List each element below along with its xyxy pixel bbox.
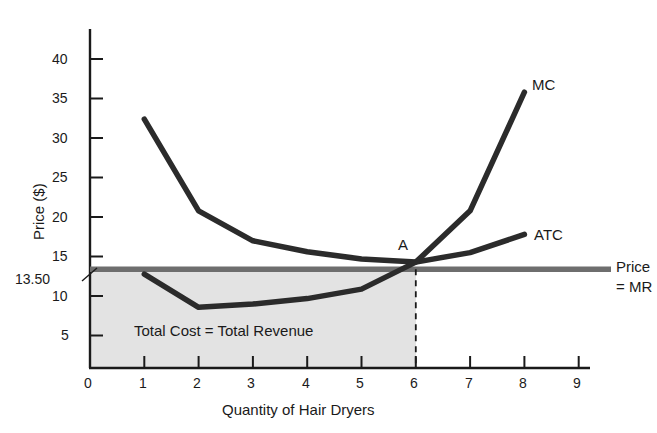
- chart-figure: 40 35 30 25 20 15 10 5 13.50 0 1 2 3 4 5…: [0, 0, 657, 433]
- atc-curve-label: ATC: [534, 226, 563, 243]
- y-tick-label-5: 5: [61, 327, 69, 343]
- mc-curve-label: MC: [532, 76, 555, 93]
- x-tick-label-0: 0: [84, 375, 92, 391]
- y-tick-label-40: 40: [52, 51, 68, 67]
- price-mr-label-line1: Price: [616, 258, 650, 275]
- x-tick-label-7: 7: [465, 375, 473, 391]
- y-tick-label-10: 10: [52, 288, 68, 304]
- y-axis-title: Price ($): [30, 183, 47, 240]
- y-tick-label-35: 35: [52, 90, 68, 106]
- y-tick-label-20: 20: [52, 209, 68, 225]
- equilibrium-point-label: A: [398, 236, 408, 253]
- x-tick-label-4: 4: [302, 375, 310, 391]
- x-tick-label-2: 2: [193, 375, 201, 391]
- price-mr-label-line2: = MR: [616, 278, 652, 295]
- y-tick-label-30: 30: [52, 130, 68, 146]
- y-tick-label-25: 25: [52, 169, 68, 185]
- x-tick-label-8: 8: [519, 375, 527, 391]
- y-tick-label-15: 15: [52, 248, 68, 264]
- price-callout-label: 13.50: [15, 271, 50, 287]
- x-axis-title: Quantity of Hair Dryers: [222, 401, 375, 418]
- x-tick-label-9: 9: [573, 375, 581, 391]
- atc-curve: [144, 119, 524, 262]
- x-tick-label-1: 1: [139, 375, 147, 391]
- chart-canvas: [0, 0, 657, 433]
- x-tick-label-3: 3: [247, 375, 255, 391]
- shaded-region-label: Total Cost = Total Revenue: [134, 322, 313, 339]
- x-tick-label-5: 5: [356, 375, 364, 391]
- x-tick-label-6: 6: [410, 375, 418, 391]
